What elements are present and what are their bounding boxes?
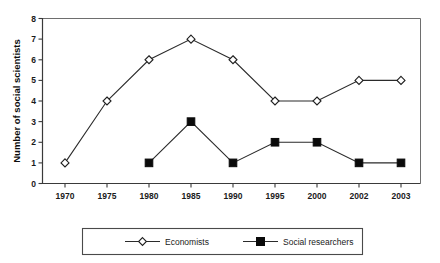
x-tick-label: 1980 — [140, 191, 159, 201]
legend-label-economists: Economists — [165, 237, 209, 247]
y-tick-label: 4 — [31, 96, 36, 106]
chart-legend: Economists Social researchers — [83, 229, 363, 255]
chart-background — [0, 0, 440, 263]
data-point-filled-square[interactable] — [397, 159, 405, 167]
data-point-filled-square[interactable] — [313, 138, 321, 146]
y-tick-label: 6 — [31, 55, 36, 65]
data-point-filled-square[interactable] — [229, 159, 237, 167]
legend-entry-social-researchers[interactable]: Social researchers — [243, 237, 353, 247]
x-tick-label: 1995 — [266, 191, 285, 201]
y-tick-label: 8 — [31, 14, 36, 24]
y-tick-label: 7 — [31, 34, 36, 44]
filled-square-icon — [257, 238, 265, 246]
y-axis-title: Number of social scientists — [11, 39, 22, 163]
y-tick-label: 2 — [31, 137, 36, 147]
x-tick-label: 1985 — [182, 191, 201, 201]
y-tick-label: 0 — [31, 179, 36, 189]
x-tick-label: 2002 — [350, 191, 369, 201]
x-tick-label: 2003 — [392, 191, 411, 201]
x-tick-label: 2000 — [308, 191, 327, 201]
data-point-filled-square[interactable] — [355, 159, 363, 167]
x-tick-label: 1990 — [224, 191, 243, 201]
chart-container: Number of social scientists 0 1 2 3 4 5 … — [0, 0, 440, 263]
data-point-filled-square[interactable] — [187, 118, 195, 126]
legend-label-social-researchers: Social researchers — [283, 237, 353, 247]
data-point-filled-square[interactable] — [271, 138, 279, 146]
data-point-filled-square[interactable] — [145, 159, 153, 167]
y-tick-label: 5 — [31, 75, 36, 85]
line-chart: Number of social scientists 0 1 2 3 4 5 … — [0, 0, 440, 263]
y-tick-label: 3 — [31, 117, 36, 127]
x-tick-label: 1975 — [98, 191, 117, 201]
x-tick-label: 1970 — [56, 191, 75, 201]
y-tick-label: 1 — [31, 158, 36, 168]
